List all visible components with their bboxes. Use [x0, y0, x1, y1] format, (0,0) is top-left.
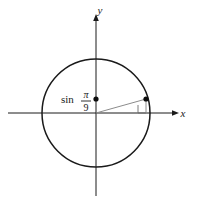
- radius-segment: [96, 99, 146, 113]
- diagram-canvas: x y sin π 9: [0, 0, 201, 209]
- x-axis-label: x: [180, 107, 186, 119]
- right-angle-marker: [138, 105, 146, 113]
- y-axis-label: y: [97, 4, 103, 16]
- point-on-y-axis: [93, 96, 98, 101]
- fraction-denominator: 9: [84, 102, 89, 113]
- point-on-circle: [143, 96, 148, 101]
- sine-function-label: sin: [61, 93, 74, 105]
- x-axis-arrowhead: [172, 110, 179, 116]
- unit-circle-figure: x y sin π 9: [0, 0, 201, 209]
- fraction-numerator: π: [83, 89, 89, 100]
